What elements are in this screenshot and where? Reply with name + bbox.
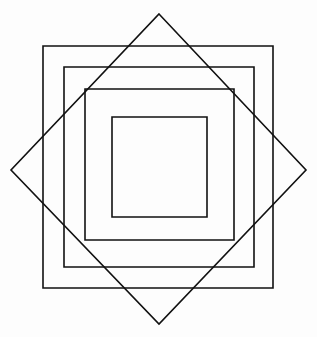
outer-square: [43, 46, 273, 288]
figure-canvas: Concentric squares with rotated square (…: [0, 0, 317, 337]
inner-square: [112, 117, 207, 217]
second-square: [64, 67, 254, 267]
geometric-figure: Concentric squares with rotated square (…: [0, 0, 317, 337]
diamond: [11, 14, 306, 324]
